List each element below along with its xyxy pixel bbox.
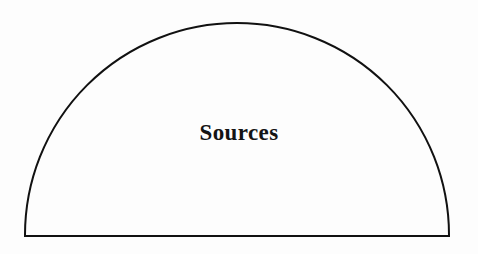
dome-label: Sources [0,119,478,147]
figure-canvas: Sources [0,0,478,254]
